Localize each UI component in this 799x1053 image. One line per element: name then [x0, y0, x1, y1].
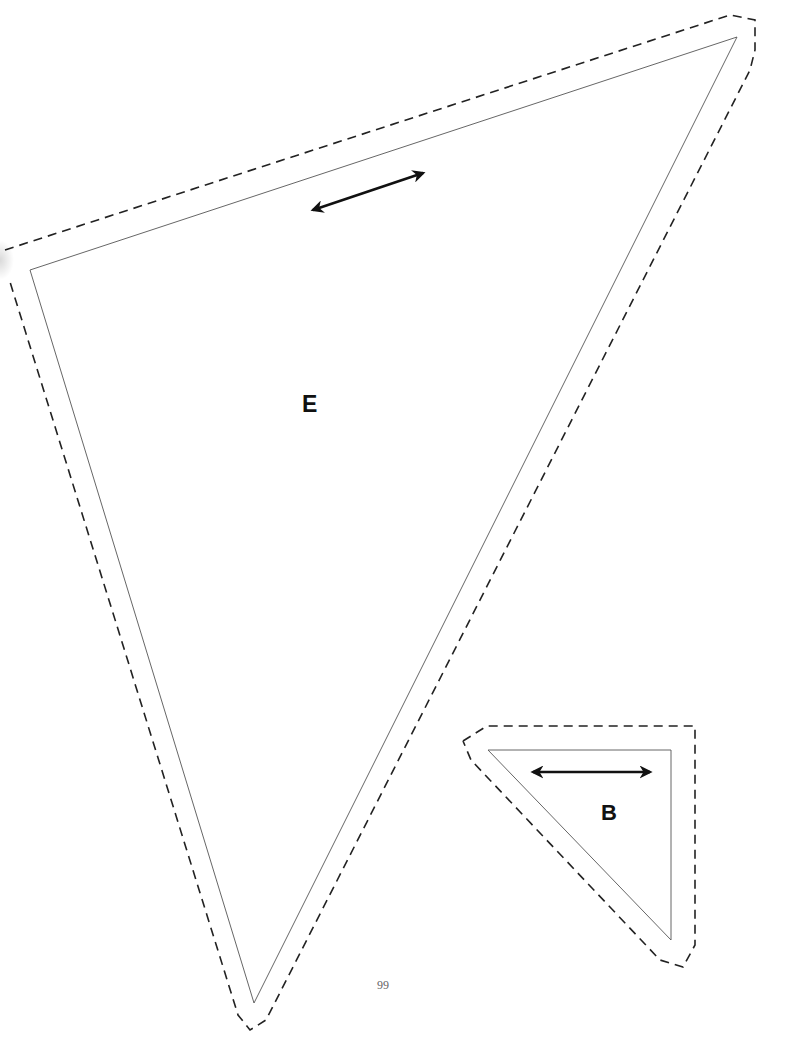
piece-e: [5, 15, 755, 1030]
pattern-page: E B 99: [0, 0, 799, 1053]
piece-b-cut-line: [463, 726, 695, 967]
piece-e-grain-arrow-icon: [313, 173, 423, 210]
piece-b: [463, 726, 695, 967]
piece-e-stitch-line: [30, 37, 737, 1003]
page-number: 99: [377, 978, 389, 993]
pattern-drawing: [0, 0, 799, 1053]
piece-e-cut-line: [5, 15, 755, 1030]
piece-e-label: E: [302, 391, 317, 418]
piece-b-stitch-line: [488, 750, 671, 940]
piece-b-label: B: [601, 800, 617, 826]
